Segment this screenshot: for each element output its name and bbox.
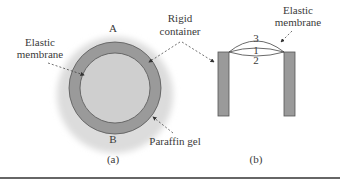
rigid-container-label-line2: container — [160, 25, 201, 37]
elastic-membrane-inner — [80, 53, 150, 123]
panel-b: 3 1 2 Elastic membrane (b) — [218, 4, 321, 166]
elastic-membrane-arrow-b — [281, 31, 292, 42]
elastic-membrane-label-a-line1: Elastic — [25, 36, 55, 48]
paraffin-gel-label: Paraffin gel — [149, 135, 200, 147]
caption-b: (b) — [250, 153, 263, 166]
panel-a: A B Elastic membrane Paraffin gel (a) — [17, 22, 201, 166]
curve-label-3: 3 — [253, 32, 259, 44]
label-a-top: A — [109, 22, 117, 34]
rigid-container-annotation: Rigid container — [149, 12, 214, 62]
label-b-bottom: B — [109, 133, 116, 145]
caption-a: (a) — [107, 153, 120, 166]
rigid-container-label-line1: Rigid — [168, 12, 193, 24]
elastic-membrane-label-b-line2: membrane — [275, 16, 322, 28]
container-wall-right — [284, 52, 295, 116]
container-wall-left — [218, 52, 229, 116]
elastic-membrane-label-a-line2: membrane — [17, 48, 64, 60]
figure-canvas: A B Elastic membrane Paraffin gel (a) Ri… — [0, 0, 340, 180]
elastic-membrane-label-b-line1: Elastic — [283, 4, 313, 16]
curve-label-2: 2 — [253, 54, 259, 66]
rigid-container-arrow-b — [182, 42, 214, 62]
